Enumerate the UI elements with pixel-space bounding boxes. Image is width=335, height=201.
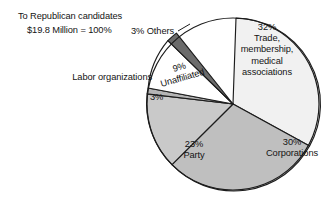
- slice-label-corporations-percent: 30%: [256, 137, 328, 148]
- slice-label-corporations: 30% Corporations: [256, 137, 328, 159]
- slice-label-trade-name-line4: associations: [222, 67, 312, 78]
- slice-label-trade-name-line1: Trade,: [222, 33, 312, 44]
- slice-label-corporations-name: Corporations: [256, 148, 328, 159]
- slice-label-party-percent: 23%: [165, 139, 223, 150]
- slice-label-trade-percent: 32%: [222, 22, 312, 33]
- slice-label-party-name: Party: [165, 150, 223, 161]
- slice-label-party: 23% Party: [165, 139, 223, 161]
- callout-others: 3% Others: [131, 26, 174, 36]
- callout-labor-organizations: Labor organizations: [58, 72, 152, 84]
- pie-chart-figure: To Republican candidates $19.8 Million =…: [0, 0, 335, 201]
- slice-label-labor-percent: 3%: [150, 92, 170, 103]
- slice-label-trade-name-line2: membership,: [222, 44, 312, 55]
- slice-label-trade-name-line3: medical: [222, 56, 312, 67]
- slice-label-trade: 32% Trade, membership, medical associati…: [222, 22, 312, 78]
